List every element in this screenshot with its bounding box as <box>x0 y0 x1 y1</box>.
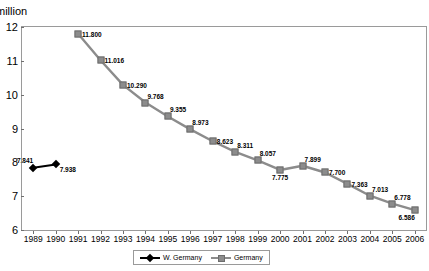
x-axis-tick-label: 2005 <box>383 234 402 244</box>
data-point-label: 8.973 <box>192 119 208 126</box>
y-axis-tick-mark <box>21 61 24 62</box>
data-point-marker <box>389 200 396 207</box>
data-point-label: 7.775 <box>272 174 288 181</box>
y-axis-tick-label: 7 <box>12 190 18 202</box>
data-point-marker <box>344 180 351 187</box>
y-axis-tick-label: 10 <box>6 89 18 101</box>
data-point-marker <box>120 81 127 88</box>
data-point-label: 9.355 <box>170 106 186 113</box>
data-point-label: 10.290 <box>127 81 147 88</box>
data-point-marker <box>97 57 104 64</box>
data-point-marker <box>142 99 149 106</box>
y-axis-tick-label: 12 <box>6 21 18 33</box>
y-axis-tick-mark <box>21 162 24 163</box>
data-point-marker <box>366 192 373 199</box>
data-point-marker <box>277 166 284 173</box>
legend-item-label: W. Germany <box>163 254 202 261</box>
x-axis-tick-label: 1998 <box>226 234 245 244</box>
y-axis-tick-label: 9 <box>12 123 18 135</box>
data-point-label: 9.768 <box>147 92 163 99</box>
legend-item-label: Germany <box>234 254 263 261</box>
data-point-marker <box>164 113 171 120</box>
legend-square-icon <box>211 253 231 262</box>
x-axis-tick-labels: 1989199019911992199319941995199619971998… <box>0 234 429 248</box>
y-axis-unit-label: million <box>0 5 27 17</box>
data-point-marker <box>322 169 329 176</box>
x-axis-tick-label: 2006 <box>405 234 424 244</box>
x-axis-tick-label: 1989 <box>24 234 43 244</box>
data-point-label: 8.623 <box>217 138 233 145</box>
data-point-marker <box>254 157 261 164</box>
legend-item[interactable]: W. Germany <box>140 253 202 262</box>
y-axis-tick-labels: 1211109876 <box>0 26 18 231</box>
data-point-label: 7.899 <box>305 155 321 162</box>
data-point-marker <box>187 126 194 133</box>
y-axis-tick-label: 11 <box>7 55 18 67</box>
x-axis-tick-label: 1992 <box>91 234 110 244</box>
x-axis-tick-label: 1994 <box>136 234 155 244</box>
plot-area: 7.8417.93811.80011.01610.2909.7689.3558.… <box>21 26 427 231</box>
data-point-marker <box>209 138 216 145</box>
x-axis-tick-label: 1995 <box>158 234 177 244</box>
x-axis-tick-label: 2004 <box>360 234 379 244</box>
x-axis-tick-label: 2001 <box>293 234 312 244</box>
y-axis-tick-mark <box>21 95 24 96</box>
data-point-label: 6.586 <box>398 214 414 221</box>
x-axis-tick-label: 2003 <box>338 234 357 244</box>
line-chart: million 1211109876 7.8417.93811.80011.01… <box>0 0 429 271</box>
x-axis-tick-label: 1996 <box>181 234 200 244</box>
data-point-label: 7.363 <box>351 180 367 187</box>
x-axis-tick-label: 1991 <box>69 234 88 244</box>
y-axis-tick-mark <box>21 129 24 130</box>
data-point-label: 6.778 <box>394 193 410 200</box>
x-axis-tick-label: 1990 <box>46 234 65 244</box>
data-point-label: 7.700 <box>329 169 345 176</box>
data-point-label: 8.057 <box>260 150 276 157</box>
y-axis-tick-mark <box>21 230 24 231</box>
data-point-label: 7.938 <box>60 167 76 174</box>
data-point-marker <box>299 162 306 169</box>
data-point-marker <box>75 30 82 37</box>
legend-item[interactable]: Germany <box>211 253 263 262</box>
data-point-label: 7.013 <box>372 185 388 192</box>
y-axis-tick-mark <box>21 27 24 28</box>
data-point-label: 11.016 <box>105 57 125 64</box>
x-axis-tick-label: 2000 <box>271 234 290 244</box>
chart-legend: W. GermanyGermany <box>133 250 270 265</box>
x-axis-tick-label: 1997 <box>203 234 222 244</box>
x-axis-tick-label: 1999 <box>248 234 267 244</box>
x-axis-tick-label: 2002 <box>316 234 335 244</box>
series-lines <box>22 27 426 230</box>
data-point-label: 7.841 <box>17 157 33 164</box>
data-point-marker <box>411 207 418 214</box>
legend-diamond-icon <box>140 253 160 262</box>
data-point-label: 11.800 <box>82 30 102 37</box>
data-point-marker <box>232 148 239 155</box>
data-point-label: 8.311 <box>237 141 253 148</box>
x-axis-tick-label: 1993 <box>114 234 133 244</box>
y-axis-tick-mark <box>21 196 24 197</box>
